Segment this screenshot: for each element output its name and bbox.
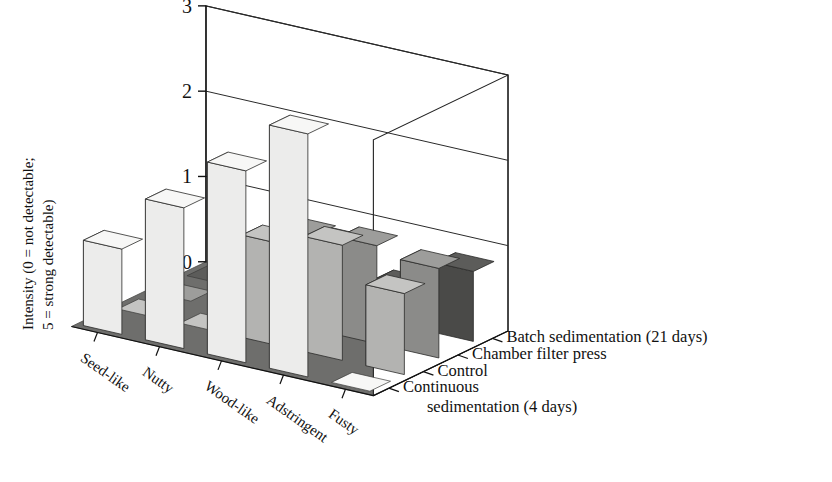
y-axis-tick-label-3: 3	[182, 0, 192, 17]
x-axis-tick-0	[94, 332, 98, 341]
bar-face-front	[304, 236, 342, 360]
x-axis-tick-3	[280, 375, 284, 384]
bar-face-front	[83, 240, 121, 334]
chart-stage: Intensity (0 = not detectable; 5 = stron…	[0, 0, 832, 482]
bar-face-front	[269, 125, 307, 377]
z-axis-tick-3	[492, 338, 502, 342]
bar-face-front	[207, 162, 245, 363]
series-label-line: Chamber filter press	[472, 344, 607, 364]
bar-face-front	[435, 263, 473, 342]
x-axis-tick-1	[156, 347, 160, 356]
x-axis-tick-4	[342, 389, 346, 398]
z-axis-tick-2	[458, 355, 468, 359]
y-axis-tick-label-1: 1	[182, 165, 192, 187]
y-axis-tick-label-2: 2	[182, 80, 192, 102]
bar-face-front	[366, 285, 404, 375]
series-label-chamber-filter-press: Chamber filter press	[472, 344, 607, 364]
z-axis-tick-0	[389, 388, 399, 392]
bar-face-front	[400, 260, 438, 358]
bar-face-front	[145, 199, 183, 349]
series-label-continuous-sedimentation-4-days-: Continuoussedimentation (4 days)	[403, 377, 577, 417]
x-axis-tick-2	[218, 361, 222, 370]
series-label-line: Continuous	[403, 377, 577, 397]
series-label-line: sedimentation (4 days)	[403, 397, 577, 417]
z-axis-tick-1	[423, 372, 433, 376]
